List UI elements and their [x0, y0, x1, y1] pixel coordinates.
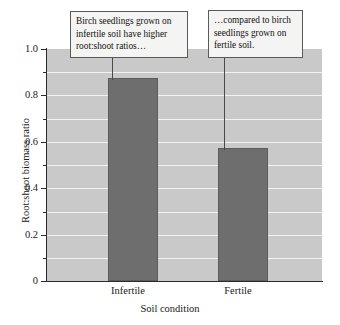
y-axis-title: Root:shoot biomass ratio	[20, 86, 31, 256]
y-tick-0.4	[41, 188, 47, 189]
y-tick-0.2	[41, 235, 47, 236]
y-tick-minor-0.3	[43, 212, 47, 213]
x-tick-label-fertile: Fertile	[188, 285, 288, 296]
y-tick-0.6	[41, 142, 47, 143]
y-tick-1.0	[41, 49, 47, 50]
callout-fertile: …compared to birch seedlings grown on fe…	[208, 10, 303, 58]
chart-figure: 1.0 0.8 0.6 0.4 0.2 0 Infertile Fertile …	[0, 0, 340, 325]
callout-infertile-leader	[112, 58, 113, 80]
y-tick-minor-0.7	[43, 119, 47, 120]
y-tick-minor-0.1	[43, 258, 47, 259]
gridline-0.6	[47, 142, 322, 143]
bar-fertile	[218, 148, 268, 281]
gridline-0.8	[47, 95, 322, 96]
gridline-0.2	[47, 235, 322, 236]
x-axis-title: Soil condition	[0, 303, 340, 314]
gridline-0.9	[47, 72, 322, 73]
gridline-0.5	[47, 165, 322, 166]
gridline-0.1	[47, 258, 322, 259]
gridline-0.7	[47, 119, 322, 120]
callout-infertile: Birch seedlings grown on infertile soil …	[70, 11, 188, 58]
x-tick-label-infertile: Infertile	[78, 285, 178, 296]
callout-fertile-leader	[224, 58, 225, 150]
y-tick-minor-0.9	[43, 72, 47, 73]
x-axis-line	[41, 281, 323, 282]
y-tick-minor-0.5	[43, 165, 47, 166]
bar-infertile	[108, 78, 158, 281]
y-tick-label-0: 0	[33, 276, 38, 287]
gridline-0.3	[47, 212, 322, 213]
plot-area	[47, 49, 322, 281]
y-tick-label-1.0: 1.0	[25, 44, 38, 55]
y-tick-0.8	[41, 95, 47, 96]
y-tick-0	[41, 281, 47, 282]
gridline-0.4	[47, 188, 322, 189]
